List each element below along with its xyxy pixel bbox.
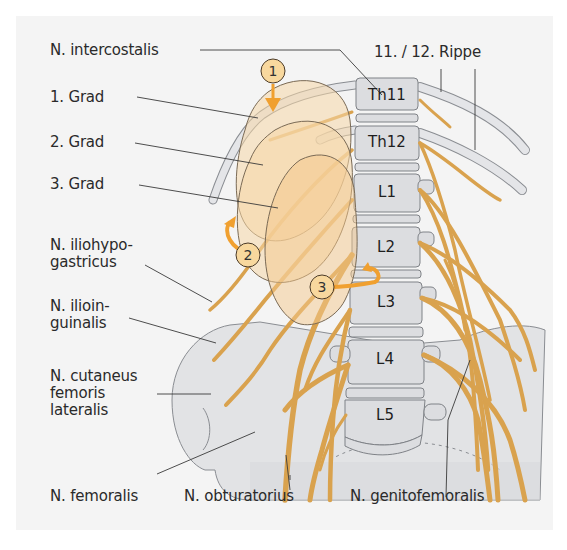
- vertebra-label-th12: Th12: [357, 133, 417, 151]
- svg-text:2: 2: [244, 247, 253, 263]
- label-grad-1: 1. Grad: [50, 89, 104, 106]
- label-n-genitofemoralis: N. genitofemoralis: [350, 488, 484, 505]
- vertebra-label-l3: L3: [356, 293, 416, 311]
- label-n-iliohypogastricus: N. iliohypo- gastricus: [50, 237, 133, 271]
- vertebra-label-l2: L2: [356, 238, 416, 256]
- kidney-ptosis-diagram: 1 2 3 N. intercostalis 1. Grad 2. Grad 3…: [0, 0, 567, 550]
- label-n-cutaneus-femoris-lateralis: N. cutaneus femoris lateralis: [50, 368, 137, 419]
- label-n-femoralis: N. femoralis: [50, 488, 138, 505]
- svg-text:3: 3: [318, 279, 327, 295]
- vertebra-label-l4: L4: [355, 350, 415, 368]
- label-n-ilioinguinalis: N. ilioin- guinalis: [50, 298, 110, 332]
- label-grad-3: 3. Grad: [50, 176, 104, 193]
- marker-1-number: 1: [269, 63, 278, 79]
- vertebra-label-l5: L5: [355, 406, 415, 424]
- label-grad-2: 2. Grad: [50, 134, 104, 151]
- diagram-canvas: 1 2 3: [0, 0, 567, 550]
- label-n-obturatorius: N. obturatorius: [184, 488, 294, 505]
- label-n-intercostalis: N. intercostalis: [50, 42, 159, 59]
- vertebra-label-l1: L1: [357, 183, 417, 201]
- label-rippe: 11. / 12. Rippe: [374, 44, 481, 61]
- vertebra-label-th11: Th11: [357, 86, 417, 104]
